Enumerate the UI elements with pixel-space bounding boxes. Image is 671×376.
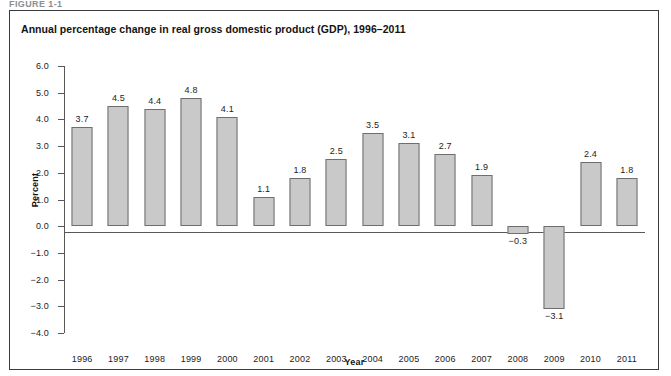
x-axis-title: Year: [64, 357, 645, 367]
bar-slot: 4.81999: [173, 66, 209, 333]
y-axis-tick-label: −2.0: [30, 275, 49, 285]
bar-value-label: −3.1: [545, 311, 564, 321]
y-axis-tick: −4.0: [58, 333, 64, 334]
bar-value-label: 3.5: [366, 120, 379, 130]
bar-slot: 4.41998: [137, 66, 173, 333]
bar-value-label: −0.3: [509, 236, 528, 246]
chart-title: Annual percentage change in real gross d…: [21, 23, 406, 35]
bar-slot: 3.12005: [391, 66, 427, 333]
bar-value-label: 4.1: [221, 104, 234, 114]
bar[interactable]: [580, 162, 601, 226]
bar-slot: 4.12000: [209, 66, 245, 333]
bar-slot: −3.12009: [536, 66, 572, 333]
y-axis-tick-label: −3.0: [30, 301, 49, 311]
bar[interactable]: [362, 133, 383, 226]
y-axis-tick-label: −4.0: [30, 328, 49, 338]
bar-value-label: 3.7: [76, 114, 89, 124]
bar[interactable]: [144, 109, 165, 226]
bar-value-label: 1.8: [293, 165, 306, 175]
figure-box: Annual percentage change in real gross d…: [9, 10, 659, 370]
bar-slot: 2.52003: [318, 66, 354, 333]
y-axis-tick-label: 4.0: [36, 114, 49, 124]
bar[interactable]: [471, 175, 492, 226]
bar[interactable]: [290, 178, 311, 226]
bar-slot: 3.71996: [64, 66, 100, 333]
bar-slot: −0.32008: [500, 66, 536, 333]
bar[interactable]: [326, 159, 347, 226]
bar-value-label: 2.4: [584, 149, 597, 159]
bar[interactable]: [181, 98, 202, 226]
y-axis-tick-label: 1.0: [36, 195, 49, 205]
bar-value-label: 2.5: [330, 146, 343, 156]
bar-slot: 2.42010: [572, 66, 608, 333]
y-axis-tick-label: 5.0: [36, 88, 49, 98]
y-axis-tick-label: 3.0: [36, 141, 49, 151]
bar-slot: 1.92007: [463, 66, 499, 333]
y-axis-tick-label: 2.0: [36, 168, 49, 178]
bar[interactable]: [398, 143, 419, 226]
bar-slot: 1.82002: [282, 66, 318, 333]
bar-value-label: 1.8: [620, 165, 633, 175]
y-axis-tick-label: 6.0: [36, 61, 49, 71]
bar-value-label: 3.1: [402, 130, 415, 140]
bar-value-label: 4.4: [148, 96, 161, 106]
bar[interactable]: [72, 127, 93, 226]
bar-value-label: 2.7: [439, 141, 452, 151]
bar-value-label: 4.5: [112, 93, 125, 103]
bar-value-label: 1.1: [257, 184, 270, 194]
bar[interactable]: [616, 178, 637, 226]
bar[interactable]: [108, 106, 129, 226]
bar-value-label: 1.9: [475, 162, 488, 172]
bar-slot: 1.12001: [246, 66, 282, 333]
y-axis-tick-label: −1.0: [30, 248, 49, 258]
bar[interactable]: [544, 226, 565, 309]
bar[interactable]: [253, 197, 274, 226]
bar[interactable]: [435, 154, 456, 226]
bar[interactable]: [507, 226, 528, 234]
bar-slot: 1.82011: [609, 66, 645, 333]
bar-slot: 2.72006: [427, 66, 463, 333]
bar-slot: 4.51997: [100, 66, 136, 333]
bar-slot: 3.52004: [355, 66, 391, 333]
bar-value-label: 4.8: [185, 85, 198, 95]
bar[interactable]: [217, 117, 238, 226]
plot-area: 6.05.04.03.02.01.00.0−1.0−2.0−3.0−4.0 3.…: [64, 66, 659, 333]
figure-caption: FIGURE 1-1: [9, 0, 129, 7]
y-axis-tick-label: 0.0: [36, 221, 49, 231]
